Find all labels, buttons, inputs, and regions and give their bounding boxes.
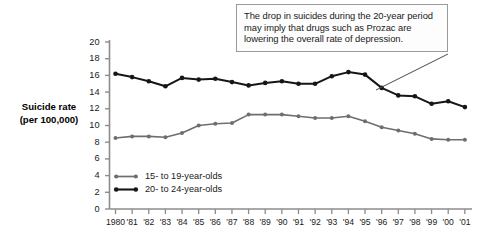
chart-legend: 15- to 19-year-olds 20- to 24-year-olds xyxy=(113,170,222,196)
y-tick-label: 16 xyxy=(80,71,100,80)
data-point xyxy=(246,83,251,88)
legend-line-marker-icon xyxy=(113,185,139,194)
data-point xyxy=(363,119,367,123)
data-point xyxy=(263,81,268,86)
data-point xyxy=(230,121,234,125)
data-point xyxy=(280,79,285,84)
data-point xyxy=(263,113,267,117)
data-point xyxy=(313,82,318,87)
legend-label-20-24: 20- to 24-year-olds xyxy=(145,183,222,196)
y-tick-label: 2 xyxy=(80,188,100,197)
data-point xyxy=(463,138,467,142)
data-point xyxy=(363,72,368,77)
annotation-text: The drop in suicides during the 20-year … xyxy=(244,10,433,44)
data-point xyxy=(130,134,134,138)
data-point xyxy=(180,76,185,81)
y-tick-label: 10 xyxy=(80,121,100,130)
data-point xyxy=(180,131,184,135)
legend-item-15-19: 15- to 19-year-olds xyxy=(113,170,222,183)
series-15-19 xyxy=(114,113,467,142)
data-point xyxy=(196,77,201,82)
data-point xyxy=(413,132,417,136)
data-point xyxy=(346,70,351,75)
data-point xyxy=(114,136,118,140)
chart-figure: Suicide rate (per 100,000) 0246810121416… xyxy=(0,0,489,245)
y-tick-label: 0 xyxy=(80,205,100,214)
data-point xyxy=(380,125,384,129)
series-line xyxy=(116,72,465,107)
data-point xyxy=(296,82,301,87)
data-point xyxy=(446,138,450,142)
legend-label-15-19: 15- to 19-year-olds xyxy=(145,170,222,183)
y-tick-label: 8 xyxy=(80,138,100,147)
data-point xyxy=(313,116,317,120)
data-point xyxy=(463,105,468,110)
data-point xyxy=(230,80,235,85)
legend-line-marker-icon xyxy=(113,172,139,181)
y-tick-label: 4 xyxy=(80,171,100,180)
data-point xyxy=(297,114,301,118)
data-point xyxy=(113,71,118,76)
data-point xyxy=(429,102,434,107)
data-point xyxy=(280,113,284,117)
x-tick-label: '01 xyxy=(445,218,485,227)
data-point xyxy=(147,134,151,138)
y-tick-label: 12 xyxy=(80,104,100,113)
data-point xyxy=(379,86,384,91)
data-point xyxy=(130,75,135,80)
data-point xyxy=(330,74,335,79)
data-point xyxy=(430,137,434,141)
data-point xyxy=(247,113,251,117)
data-point xyxy=(396,93,401,98)
series-line xyxy=(116,115,465,140)
y-tick-label: 6 xyxy=(80,154,100,163)
data-point xyxy=(163,135,167,139)
y-tick-label: 18 xyxy=(80,54,100,63)
y-tick-label: 20 xyxy=(80,38,100,47)
data-point xyxy=(346,114,350,118)
data-point xyxy=(413,94,418,99)
y-tick-label: 14 xyxy=(80,88,100,97)
data-point xyxy=(213,122,217,126)
data-point xyxy=(330,116,334,120)
data-point xyxy=(396,129,400,133)
data-point xyxy=(147,79,152,84)
data-point xyxy=(446,99,451,104)
data-point xyxy=(197,124,201,128)
data-point xyxy=(163,84,168,89)
series-20-24 xyxy=(113,70,467,110)
annotation-callout: The drop in suicides during the 20-year … xyxy=(236,4,448,52)
legend-item-20-24: 20- to 24-year-olds xyxy=(113,183,222,196)
data-point xyxy=(213,76,218,81)
